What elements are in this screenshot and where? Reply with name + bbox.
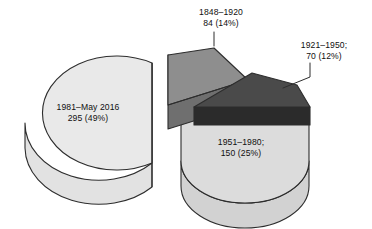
slice-label-1921-1950-value: 70 (12%) (276, 51, 372, 62)
slice-label-1921-1950: 1921–1950; 70 (12%) (276, 40, 372, 61)
slice-label-1848-1920-range: 1848–1920 (156, 7, 286, 18)
pie-slice-1981-may-2016[interactable] (25, 56, 152, 204)
slice-label-1951-1980-value: 150 (25%) (176, 148, 306, 159)
slice-label-1981-may-2016-range: 1981–May 2016 (18, 102, 158, 113)
slice-label-1981-may-2016-value: 295 (49%) (18, 113, 158, 124)
slice-label-1951-1980-range: 1951–1980; (176, 137, 306, 148)
slice-label-1921-1950-range: 1921–1950; (276, 40, 372, 51)
pie-slice-1951-1980[interactable] (181, 113, 309, 228)
slice-label-1981-may-2016: 1981–May 2016 295 (49%) (18, 102, 158, 123)
pie-slice-1921-1950-side (194, 107, 310, 125)
pie-chart: 1848–1920 84 (14%) 1921–1950; 70 (12%) 1… (0, 0, 372, 229)
slice-label-1848-1920: 1848–1920 84 (14%) (156, 7, 286, 28)
slice-label-1951-1980: 1951–1980; 150 (25%) (176, 137, 306, 158)
slice-label-1848-1920-value: 84 (14%) (156, 18, 286, 29)
